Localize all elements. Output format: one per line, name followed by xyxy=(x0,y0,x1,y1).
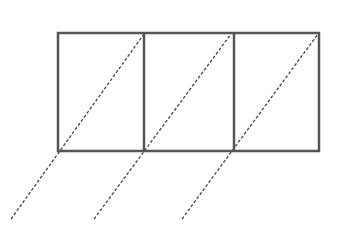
diagram-canvas xyxy=(0,0,347,226)
